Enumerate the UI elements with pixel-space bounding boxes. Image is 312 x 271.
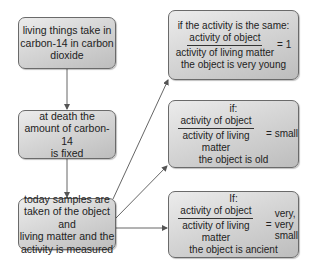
ratio-fraction: activity of object activity of living ma… xyxy=(176,32,274,59)
arrow-measure-to-small xyxy=(116,166,167,218)
outcome-small-ratio: activity of object activity of living ma… xyxy=(169,115,298,154)
ratio-result-line-2: very xyxy=(275,219,294,230)
outcome-very-small-condition: If: xyxy=(229,193,237,205)
step-intake-box: living things take in carbon-14 in carbo… xyxy=(18,17,116,69)
step-death-line-3: is fixed xyxy=(51,147,84,160)
ratio-denominator: activity of living matter xyxy=(169,219,263,244)
outcome-same-condition: if the activity is the same: xyxy=(178,20,290,32)
ratio-denominator: activity of living matter xyxy=(169,129,263,154)
step-death-box: at death the amount of carbon-14 is fixe… xyxy=(18,110,116,159)
ratio-fraction: activity of object activity of living ma… xyxy=(169,115,263,154)
step-death-line-2: amount of carbon-14 xyxy=(19,122,115,147)
ratio-result-line-1: very, xyxy=(275,208,296,219)
arrow-measure-to-same xyxy=(113,80,168,199)
outcome-small-condition: if: xyxy=(230,103,238,115)
ratio-result-line-3: small xyxy=(275,230,298,241)
step-measure-line-1: today samples are xyxy=(24,193,110,206)
ratio-result: = 1 xyxy=(277,39,291,51)
outcome-very-small-ratio: activity of object activity of living ma… xyxy=(169,205,298,244)
step-measure-line-2: taken of the object and xyxy=(19,205,115,230)
ratio-numerator: activity of object xyxy=(178,205,253,219)
step-measure-line-3: living matter and the xyxy=(20,230,115,243)
step-intake-line-1: living things take in xyxy=(23,24,112,37)
step-death-line-1: at death the xyxy=(39,110,94,123)
ratio-result: = small xyxy=(266,128,298,140)
outcome-small-box: if: activity of object activity of livin… xyxy=(168,100,299,168)
outcome-very-small-box: If: activity of object activity of livin… xyxy=(168,191,299,258)
ratio-equals: = xyxy=(266,219,272,231)
step-intake-line-2: carbon-14 in carbon xyxy=(20,37,113,50)
outcome-same-conclusion: the object is very young xyxy=(181,59,286,71)
outcome-same-box: if the activity is the same: activity of… xyxy=(168,10,299,80)
outcome-small-conclusion: the object is old xyxy=(199,154,269,166)
ratio-denominator: activity of living matter xyxy=(176,46,274,59)
outcome-very-small-conclusion: the object is ancient xyxy=(189,244,277,256)
step-measure-box: today samples are taken of the object an… xyxy=(18,198,116,250)
outcome-same-ratio: activity of object activity of living ma… xyxy=(176,32,292,59)
ratio-fraction: activity of object activity of living ma… xyxy=(169,205,263,244)
ratio-result: very, very small xyxy=(275,208,298,241)
carbon-dating-flowchart: living things take in carbon-14 in carbo… xyxy=(0,0,312,271)
step-measure-line-4: activity is measured xyxy=(21,243,113,256)
step-intake-line-3: dioxide xyxy=(50,49,83,62)
ratio-numerator: activity of object xyxy=(178,115,253,129)
ratio-numerator: activity of object xyxy=(187,32,262,46)
